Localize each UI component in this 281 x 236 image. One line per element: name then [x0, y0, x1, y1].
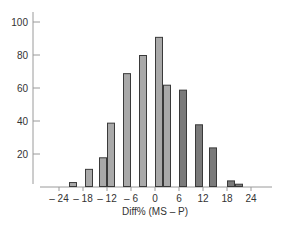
x-tick-label: 6 — [176, 193, 182, 204]
x-tick-label: 12 — [197, 193, 209, 204]
x-tick-label: – 6 — [124, 193, 138, 204]
histogram-bar — [164, 85, 171, 186]
histogram-bar — [228, 181, 235, 187]
y-tick-label: 60 — [17, 83, 29, 94]
x-axis-title: Diff% (MS – P) — [122, 206, 188, 217]
x-tick-label: – 24 — [49, 193, 69, 204]
histogram-bar — [156, 37, 163, 186]
x-tick-label: – 18 — [73, 193, 93, 204]
y-axis: 20406080100 — [11, 12, 40, 184]
histogram-chart: 20406080100 – 24– 18– 12– 606121824 Diff… — [0, 0, 281, 236]
y-tick-label: 100 — [11, 17, 28, 28]
histogram-bar — [210, 148, 217, 187]
y-tick-label: 20 — [17, 149, 29, 160]
x-tick-label: – 12 — [97, 193, 117, 204]
histogram-bar — [196, 125, 203, 187]
x-tick-label: 18 — [221, 193, 233, 204]
y-tick-label: 80 — [17, 50, 29, 61]
histogram-bar — [180, 90, 187, 186]
histogram-bar — [100, 158, 107, 187]
histogram-bar — [108, 123, 115, 186]
x-axis: – 24– 18– 12– 606121824 — [40, 187, 272, 204]
x-tick-label: 0 — [152, 193, 158, 204]
histogram-bar — [236, 184, 243, 186]
histogram-bar — [124, 74, 131, 187]
y-tick-label: 40 — [17, 116, 29, 127]
histogram-bar — [86, 169, 93, 186]
histogram-bar — [140, 56, 147, 187]
bars — [70, 37, 243, 186]
x-tick-label: 24 — [245, 193, 257, 204]
histogram-bar — [70, 183, 77, 187]
